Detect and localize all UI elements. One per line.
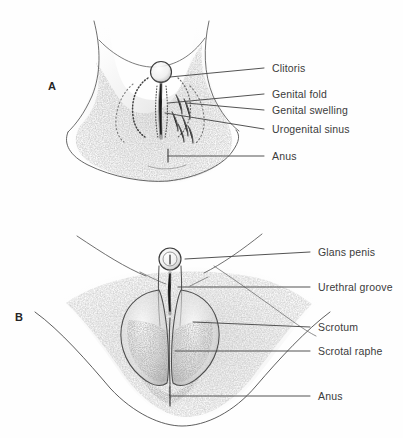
- panel-b-drawing: [35, 234, 330, 426]
- panel-b-right-inguinal: [204, 234, 262, 273]
- label-glans-penis: Glans penis: [318, 246, 375, 258]
- label-urogenital-sinus: Urogenital sinus: [272, 123, 350, 135]
- panel-letter-b: B: [15, 311, 23, 323]
- label-anus-panel-b: Anus: [318, 390, 343, 402]
- label-genital-fold: Genital fold: [272, 88, 327, 100]
- label-anus-panel-a: Anus: [272, 150, 297, 162]
- panel-a-urogenital-sinus-core: [160, 84, 161, 134]
- label-scrotal-raphe: Scrotal raphe: [318, 345, 382, 357]
- anatomy-figure: A B Clitoris Genital fold Genital swelli…: [0, 0, 403, 438]
- label-clitoris: Clitoris: [272, 62, 305, 74]
- panel-b-urethral-groove-core: [169, 274, 170, 311]
- panel-letter-a: A: [48, 80, 56, 92]
- label-genital-swelling: Genital swelling: [272, 104, 348, 116]
- panel-a-drawing: [66, 21, 264, 184]
- figure-canvas: [0, 0, 403, 438]
- leader-glans-penis: [185, 252, 310, 259]
- label-scrotum: Scrotum: [318, 321, 358, 333]
- panel-b-left-inguinal: [77, 236, 146, 276]
- leader-clitoris: [170, 68, 264, 77]
- label-urethral-groove: Urethral groove: [318, 281, 393, 293]
